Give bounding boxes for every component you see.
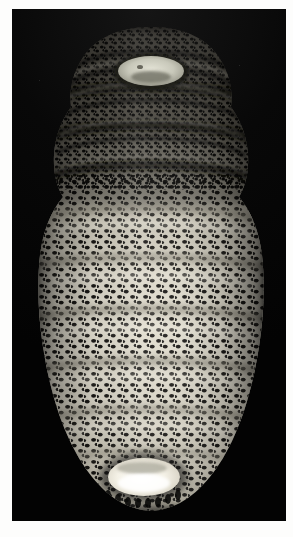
photo-page <box>0 0 293 537</box>
larva-body <box>32 25 270 511</box>
figure-caption <box>14 529 279 537</box>
cephalic-aperture-group <box>113 53 189 91</box>
posterior-spiracular-plate-group <box>100 453 188 501</box>
body-clip-group <box>32 25 270 511</box>
larva-specimen <box>32 25 270 511</box>
specimen-photograph <box>12 9 286 521</box>
